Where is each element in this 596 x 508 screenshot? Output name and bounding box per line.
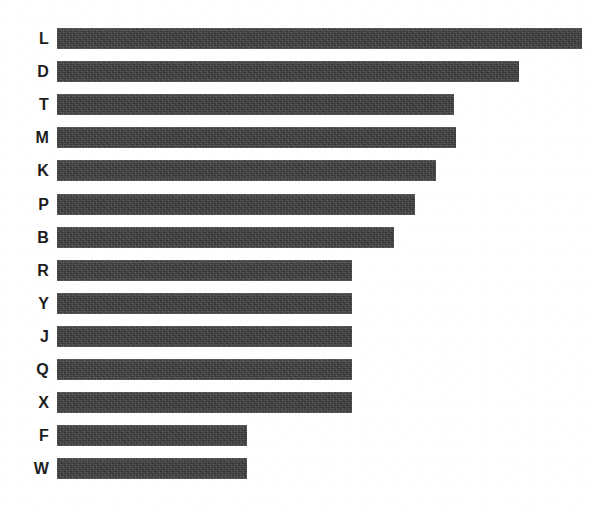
bar-category-label: M — [0, 127, 49, 148]
bar — [57, 227, 394, 248]
bar-category-label: T — [0, 94, 49, 115]
bar-category-label: P — [0, 194, 49, 215]
bar-category-label: R — [0, 260, 49, 281]
bar-category-label: K — [0, 160, 49, 181]
bar-row: D — [0, 61, 596, 82]
bar — [57, 28, 582, 49]
bar-row: P — [0, 194, 596, 215]
bar-category-label: W — [0, 458, 49, 479]
bar-row: W — [0, 458, 596, 479]
bar — [57, 94, 454, 115]
bar-category-label: X — [0, 392, 49, 413]
bar — [57, 425, 247, 446]
bar-row: L — [0, 28, 596, 49]
bar — [57, 194, 415, 215]
bar-chart: LDTMKPBRYJQXFW — [0, 0, 596, 508]
bar — [57, 359, 352, 380]
bar-row: J — [0, 326, 596, 347]
bar-category-label: B — [0, 227, 49, 248]
bar-row: X — [0, 392, 596, 413]
bar-row: B — [0, 227, 596, 248]
bar-row: K — [0, 160, 596, 181]
bar-category-label: J — [0, 326, 49, 347]
bar-row: M — [0, 127, 596, 148]
bar-category-label: F — [0, 425, 49, 446]
bar — [57, 392, 352, 413]
bar — [57, 127, 456, 148]
bar-category-label: D — [0, 61, 49, 82]
bar — [57, 458, 247, 479]
bar-row: Q — [0, 359, 596, 380]
bar-category-label: Q — [0, 359, 49, 380]
bar-row: T — [0, 94, 596, 115]
bar — [57, 293, 352, 314]
bar-category-label: L — [0, 28, 49, 49]
bar — [57, 160, 436, 181]
bar — [57, 61, 519, 82]
bar — [57, 326, 352, 347]
bar — [57, 260, 352, 281]
bar-category-label: Y — [0, 293, 49, 314]
bar-row: Y — [0, 293, 596, 314]
bar-row: F — [0, 425, 596, 446]
bar-row: R — [0, 260, 596, 281]
